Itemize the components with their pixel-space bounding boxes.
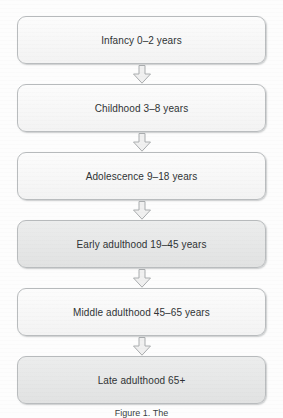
- down-arrow-icon: [132, 201, 152, 220]
- flow-node-label: Early adulthood 19–45 years: [76, 239, 206, 250]
- flow-node-late-adulthood[interactable]: Late adulthood 65+: [17, 356, 266, 404]
- flow-node-childhood[interactable]: Childhood 3–8 years: [17, 84, 266, 132]
- down-arrow-icon: [132, 337, 152, 356]
- flow-node-label: Middle adulthood 45–65 years: [73, 307, 210, 318]
- flow-node-label: Infancy 0–2 years: [101, 35, 182, 46]
- flow-node-early-adulthood[interactable]: Early adulthood 19–45 years: [17, 220, 266, 268]
- flow-node-adolescence[interactable]: Adolescence 9–18 years: [17, 152, 266, 200]
- down-arrow-icon: [132, 65, 152, 84]
- figure-caption: Figure 1. The: [0, 408, 283, 418]
- flow-node-label: Childhood 3–8 years: [95, 103, 189, 114]
- down-arrow-icon: [132, 269, 152, 288]
- flow-node-label: Adolescence 9–18 years: [86, 171, 198, 182]
- down-arrow-icon: [132, 133, 152, 152]
- flow-node-label: Late adulthood 65+: [98, 375, 186, 386]
- flow-node-infancy[interactable]: Infancy 0–2 years: [17, 16, 266, 64]
- flow-node-middle-adulthood[interactable]: Middle adulthood 45–65 years: [17, 288, 266, 336]
